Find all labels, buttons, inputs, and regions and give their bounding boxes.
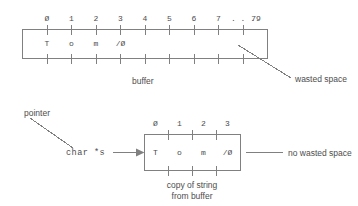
buffer-index-0: Ø [34, 14, 60, 23]
pointer-leader-line [30, 118, 73, 148]
buffer-index-79: 79 [243, 14, 269, 23]
no-wasted-space-label: no wasted space [288, 148, 352, 158]
copy-index-3: 3 [216, 119, 240, 128]
wasted-space-label: wasted space [295, 74, 347, 84]
copy-cell-0: T [144, 148, 168, 157]
pointer-declaration: char *s [66, 148, 105, 158]
copy-index-1: 1 [168, 119, 192, 128]
copy-caption-line1: copy of string [142, 180, 242, 191]
copy-cell-3: /Ø [216, 148, 240, 157]
copy-cell-1: o [168, 148, 192, 157]
pointer-label: pointer [24, 108, 50, 118]
copy-index-2: 2 [192, 119, 216, 128]
buffer-cell-0: T [34, 39, 60, 48]
copy-caption-line2: from buffer [142, 191, 242, 202]
wasted-space-leader-line [238, 45, 291, 78]
buffer-index-6: 6 [181, 14, 207, 23]
buffer-cell-1: o [59, 39, 85, 48]
buffer-label: buffer [132, 76, 154, 86]
buffer-index-5: 5 [157, 14, 183, 23]
buffer-index-3: 3 [108, 14, 134, 23]
buffer-cell-3: /Ø [108, 39, 134, 48]
buffer-index-4: 4 [132, 14, 158, 23]
string-buffer-diagram: Ø 1 2 3 4 5 6 7 . . . 79 T o m /Ø buffer… [0, 0, 358, 206]
copy-cell-2: m [192, 148, 216, 157]
buffer-cell-2: m [83, 39, 109, 48]
buffer-index-2: 2 [83, 14, 109, 23]
copy-index-0: Ø [144, 119, 168, 128]
diagram-vector-layer [0, 0, 358, 206]
buffer-index-1: 1 [59, 14, 85, 23]
